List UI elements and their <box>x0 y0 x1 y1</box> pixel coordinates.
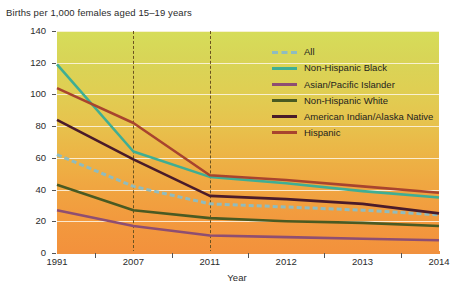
y-tick-label: 120 <box>2 57 46 68</box>
legend-item-all[interactable]: All <box>272 45 433 59</box>
legend-item-label: Non-Hispanic White <box>304 96 388 106</box>
y-tick-mark <box>52 253 56 254</box>
legend-item-non-hispanic-white[interactable]: Non-Hispanic White <box>272 94 433 108</box>
y-tick-label: 100 <box>2 88 46 99</box>
chart-legend: AllNon-Hispanic BlackAsian/Pacific Islan… <box>272 45 433 140</box>
y-tick-mark <box>52 190 56 191</box>
y-tick-mark <box>52 63 56 64</box>
legend-swatch-icon <box>272 51 297 54</box>
y-tick-label: 60 <box>2 152 46 163</box>
teen-birth-rate-line-chart: Births per 1,000 females aged 15–19 year… <box>0 0 474 293</box>
legend-item-label: Non-Hispanic Black <box>304 63 387 73</box>
y-tick-label: 80 <box>2 120 46 131</box>
legend-item-non-hispanic-black[interactable]: Non-Hispanic Black <box>272 61 433 75</box>
x-tick-mark <box>248 253 249 258</box>
y-axis-title: Births per 1,000 females aged 15–19 year… <box>6 7 192 18</box>
x-tick-label: 2014 <box>428 256 449 267</box>
x-axis-title: Year <box>0 272 474 283</box>
y-tick-label: 140 <box>2 25 46 36</box>
legend-item-asian-pacific-islander[interactable]: Asian/Pacific Islander <box>272 77 433 91</box>
y-tick-label: 20 <box>2 215 46 226</box>
x-tick-label: 1991 <box>46 256 67 267</box>
legend-swatch-icon <box>272 67 297 70</box>
x-tick-label: 2012 <box>276 256 297 267</box>
legend-swatch-icon <box>272 99 297 102</box>
x-tick-mark <box>401 253 402 258</box>
x-tick-mark <box>324 253 325 258</box>
legend-swatch-icon <box>272 131 297 134</box>
x-tick-label: 2011 <box>200 256 220 267</box>
legend-item-label: American Indian/Alaska Native <box>304 112 433 122</box>
series-line <box>57 210 439 240</box>
legend-swatch-icon <box>272 83 297 86</box>
y-tick-mark <box>52 221 56 222</box>
x-tick-label: 2007 <box>123 256 144 267</box>
x-tick-label: 2013 <box>352 256 373 267</box>
legend-item-label: Asian/Pacific Islander <box>304 80 395 90</box>
legend-item-label: All <box>304 47 315 57</box>
x-tick-mark <box>95 253 96 258</box>
legend-item-american-indian-alaska-native[interactable]: American Indian/Alaska Native <box>272 110 433 124</box>
y-tick-mark <box>52 94 56 95</box>
legend-swatch-icon <box>272 115 297 118</box>
y-tick-mark <box>52 126 56 127</box>
y-tick-label: 0 <box>2 247 46 258</box>
x-tick-mark <box>172 253 173 258</box>
y-tick-mark <box>52 31 56 32</box>
legend-item-hispanic[interactable]: Hispanic <box>272 126 433 140</box>
legend-item-label: Hispanic <box>304 128 340 138</box>
y-tick-mark <box>52 158 56 159</box>
y-tick-label: 40 <box>2 184 46 195</box>
